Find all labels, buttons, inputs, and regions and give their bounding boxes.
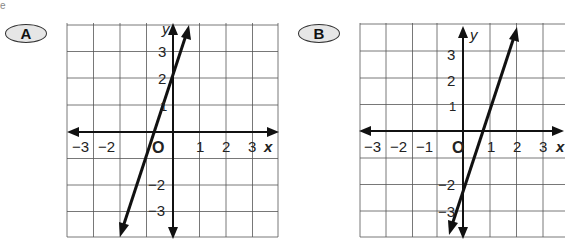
svg-text:3: 3	[447, 46, 455, 63]
svg-text:x: x	[263, 138, 273, 155]
svg-text:−2: −2	[438, 176, 455, 193]
svg-text:−2: −2	[390, 138, 407, 155]
axes-a	[70, 26, 275, 236]
svg-text:y: y	[469, 26, 479, 43]
svg-text:−1: −1	[416, 138, 433, 155]
svg-text:−3: −3	[148, 202, 165, 219]
svg-text:x: x	[555, 138, 565, 155]
svg-text:1: 1	[196, 138, 204, 155]
svg-text:−3: −3	[438, 203, 455, 220]
svg-text:3: 3	[158, 43, 166, 60]
svg-text:−3: −3	[364, 138, 381, 155]
svg-text:3: 3	[248, 138, 256, 155]
svg-text:−2: −2	[98, 138, 115, 155]
svg-text:2: 2	[222, 138, 230, 155]
choice-b-label: B	[314, 25, 325, 42]
svg-text:2: 2	[158, 70, 166, 87]
choice-b-badge[interactable]: B	[298, 24, 340, 43]
graph-a: y 3 2 1 −2 −3 −3 −2 O 1 2 3 x	[60, 15, 285, 243]
svg-text:O: O	[152, 139, 164, 156]
choice-a-badge[interactable]: A	[5, 24, 47, 43]
svg-text:−3: −3	[72, 138, 89, 155]
svg-text:O: O	[452, 139, 464, 156]
svg-text:−2: −2	[148, 176, 165, 193]
svg-text:2: 2	[513, 138, 521, 155]
svg-text:1: 1	[449, 99, 456, 114]
svg-text:1: 1	[487, 138, 495, 155]
svg-text:2: 2	[447, 72, 455, 89]
svg-text:1: 1	[160, 99, 167, 114]
cropped-text-fragment: e	[0, 0, 6, 11]
svg-text:3: 3	[539, 138, 547, 155]
axes-b	[363, 30, 560, 234]
graph-b: y 3 2 1 −2 −3 −3 −2 −1 O 1 2 3 x	[355, 15, 565, 243]
choice-a-label: A	[21, 25, 32, 42]
